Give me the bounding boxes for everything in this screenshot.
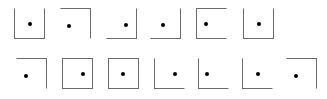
figure-13-dot <box>294 74 298 78</box>
figure-7-outline <box>16 58 47 89</box>
figure-10-outline <box>154 58 185 89</box>
figure-6-outline <box>243 8 274 39</box>
figure-3 <box>100 0 144 49</box>
figure-6 <box>237 0 281 49</box>
figure-4-outline <box>150 8 181 39</box>
figure-7-dot <box>24 74 28 78</box>
figure-9-dot <box>121 72 125 76</box>
figure-12-outline <box>242 58 273 89</box>
figure-canvas <box>0 0 327 99</box>
figure-8-dot <box>81 72 85 76</box>
figure-2-dot <box>67 24 71 28</box>
figure-5 <box>190 0 234 49</box>
figure-2 <box>54 0 98 49</box>
figure-4-dot <box>161 23 165 27</box>
figure-4 <box>144 0 188 49</box>
figure-12-dot <box>256 72 260 76</box>
figure-11-dot <box>205 72 209 76</box>
figure-3-dot <box>124 23 128 27</box>
figure-6-dot <box>257 22 261 26</box>
figure-5-outline <box>196 8 227 39</box>
figure-3-outline <box>106 8 137 39</box>
figure-row-bottom <box>0 50 327 99</box>
figure-1-outline <box>14 8 45 39</box>
figure-13 <box>280 50 324 99</box>
figure-5-dot <box>204 22 208 26</box>
figure-11 <box>192 50 236 99</box>
figure-7 <box>10 50 54 99</box>
figure-2-outline <box>60 8 91 39</box>
figure-9-outline <box>108 58 139 89</box>
figure-8-outline <box>62 58 93 89</box>
figure-1-dot <box>28 22 32 26</box>
figure-10-dot <box>173 72 177 76</box>
figure-1 <box>8 0 52 49</box>
figure-8 <box>56 50 100 99</box>
figure-10 <box>148 50 192 99</box>
figure-11-outline <box>198 58 229 89</box>
figure-row-top <box>0 0 327 49</box>
figure-9 <box>102 50 146 99</box>
figure-12 <box>236 50 280 99</box>
figure-13-outline <box>286 58 317 89</box>
